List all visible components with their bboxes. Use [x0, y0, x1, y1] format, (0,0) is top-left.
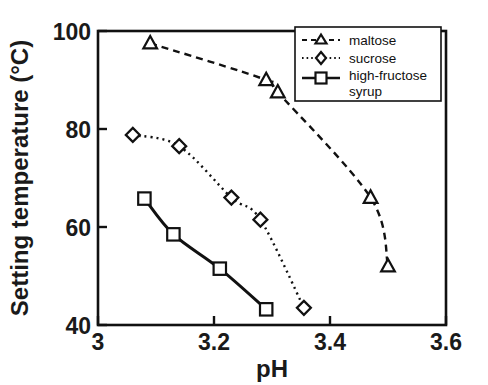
data-point [138, 192, 150, 204]
x-tick-label-3.4: 3.4 [314, 329, 346, 355]
data-point [381, 259, 395, 271]
data-point [126, 128, 140, 142]
x-tick-label-3.6: 3.6 [430, 329, 462, 355]
series-high-fructose-syrup [138, 192, 272, 315]
chart-figure: 100 80 60 40 3 3.2 3.4 3.6 pH Setting te… [0, 0, 488, 385]
x-axis-title: pH [256, 355, 288, 382]
y-tick-label-80: 80 [65, 117, 91, 143]
data-point [260, 303, 272, 315]
x-tick-label-3.2: 3.2 [198, 329, 230, 355]
legend-label-high-fructose: high-fructose [349, 68, 427, 83]
data-point [214, 262, 226, 274]
legend-marker-square [316, 73, 327, 84]
y-tick-label-60: 60 [65, 215, 91, 241]
data-point [297, 301, 311, 315]
series-line-high-fructose-syrup [144, 199, 266, 310]
legend: maltose sucrose high-fructose syrup [295, 27, 441, 101]
y-tick-label-100: 100 [53, 19, 91, 45]
x-tick-label-3: 3 [92, 329, 105, 355]
x-axis-ticks [98, 316, 446, 325]
data-point [259, 73, 273, 85]
y-tick-label-40: 40 [65, 313, 91, 339]
data-point [143, 36, 157, 48]
data-point [167, 228, 179, 240]
legend-label-sucrose: sucrose [349, 51, 396, 66]
series-sucrose [126, 128, 311, 315]
scatter-plot: 100 80 60 40 3 3.2 3.4 3.6 pH Setting te… [0, 0, 488, 385]
y-axis-title: Setting temperature (°C) [6, 40, 33, 316]
y-axis-ticks [98, 31, 107, 325]
legend-label-syrup: syrup [349, 84, 382, 99]
series-line-sucrose [133, 135, 304, 308]
legend-label-maltose: maltose [349, 33, 396, 48]
